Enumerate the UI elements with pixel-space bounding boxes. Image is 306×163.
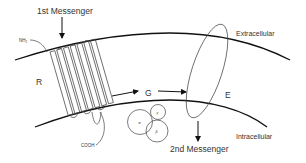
nh2-label: NH₂ bbox=[19, 38, 27, 43]
intracellular-label: Intracellular bbox=[236, 133, 273, 140]
alpha-label: α bbox=[139, 121, 142, 125]
receptor-helices bbox=[30, 38, 114, 145]
effector-protein bbox=[178, 20, 237, 122]
arrow-r-to-g bbox=[112, 91, 138, 96]
first-messenger-label: 1st Messenger bbox=[37, 6, 93, 16]
cooh-label: COOH bbox=[81, 143, 95, 148]
second-messenger-label: 2nd Messenger bbox=[170, 144, 229, 154]
arrow-g-to-e bbox=[158, 91, 186, 92]
beta-label: β bbox=[155, 130, 158, 134]
gpcr-diagram: 1st Messenger NH₂ R COOH G E Extracellul… bbox=[0, 0, 306, 163]
gamma-label: γ bbox=[157, 111, 159, 115]
effector-label: E bbox=[225, 90, 231, 100]
extracellular-label: Extracellular bbox=[236, 30, 275, 37]
g-protein-label: G bbox=[145, 88, 152, 98]
g-protein-subunits bbox=[128, 105, 169, 143]
receptor-label: R bbox=[36, 77, 42, 87]
